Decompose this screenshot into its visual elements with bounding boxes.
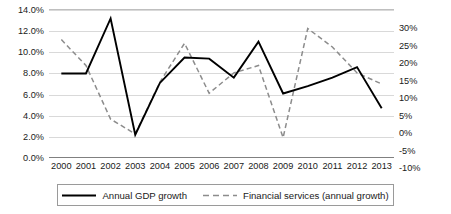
series-financial-services-line	[61, 29, 381, 138]
y-axis-right-tick: -5%	[399, 146, 415, 156]
y-axis-left-tick: 0.0%	[0, 153, 44, 163]
legend-item-annual-gdp-growth: Annual GDP growth	[62, 190, 187, 201]
y-axis-left-tick: 12.0%	[0, 26, 44, 36]
y-axis-left-tick: 2.0%	[0, 132, 44, 142]
chart-legend: Annual GDP growth Financial services (an…	[57, 184, 394, 206]
y-axis-right-tick: -10%	[399, 163, 420, 173]
legend-label: Annual GDP growth	[102, 190, 187, 201]
y-axis-right-tick: 20%	[399, 58, 417, 68]
chart-container: 14.0% 12.0% 10.0% 8.0% 6.0% 4.0% 2.0% 0.…	[0, 0, 451, 214]
legend-swatch-dashed-icon	[203, 191, 237, 200]
y-axis-right-tick: 30%	[399, 23, 417, 33]
y-axis-right-tick: 5%	[399, 111, 412, 121]
y-axis-left-tick: 4.0%	[0, 111, 44, 121]
legend-label: Financial services (annual growth)	[243, 190, 389, 201]
y-axis-left-tick: 8.0%	[0, 68, 44, 78]
y-axis-right-tick: 15%	[399, 76, 417, 86]
x-axis-tick: 2013	[367, 161, 397, 172]
y-axis-right-tick: 0%	[399, 128, 412, 138]
series-plot	[49, 10, 394, 158]
y-axis-right-tick: 25%	[399, 41, 417, 51]
y-axis-left-tick: 6.0%	[0, 90, 44, 100]
y-axis-right-tick: 10%	[399, 93, 417, 103]
legend-swatch-solid-icon	[62, 191, 96, 200]
y-axis-left-tick: 10.0%	[0, 47, 44, 57]
legend-item-financial-services: Financial services (annual growth)	[203, 190, 389, 201]
y-axis-left-tick: 14.0%	[0, 5, 44, 15]
